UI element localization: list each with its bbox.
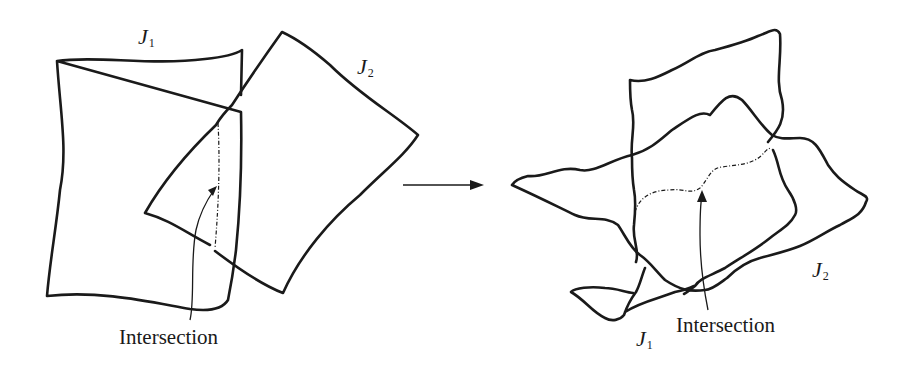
diagram-drawing <box>0 0 908 367</box>
left-intersection-pointer <box>190 186 217 320</box>
left-intersection-curve <box>215 123 219 248</box>
label-subscript: 1 <box>149 36 155 50</box>
right-caption-intersection: Intersection <box>676 313 775 338</box>
right-label-j1: J1 <box>636 326 653 353</box>
figure: J1 J2 Intersection J1 J2 Intersection <box>0 0 908 367</box>
label-base: J <box>138 24 148 49</box>
label-subscript: 2 <box>368 66 374 80</box>
label-base: J <box>636 326 646 351</box>
left-sheet-j2 <box>145 32 418 293</box>
left-sheet-j1 <box>47 50 242 310</box>
label-subscript: 1 <box>647 338 653 352</box>
right-intersection-curve <box>635 148 772 212</box>
label-subscript: 2 <box>823 269 829 283</box>
left-caption-intersection: Intersection <box>119 325 218 350</box>
right-sheet-j1 <box>571 30 796 320</box>
label-base: J <box>357 54 367 79</box>
right-label-j2: J2 <box>812 257 829 284</box>
right-intersection-pointer <box>697 190 708 310</box>
left-label-j1: J1 <box>138 24 155 51</box>
label-base: J <box>812 257 822 282</box>
transform-arrow <box>403 180 484 190</box>
left-label-j2: J2 <box>357 54 374 81</box>
